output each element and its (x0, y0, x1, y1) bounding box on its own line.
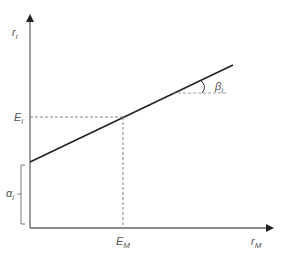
slope-angle-arc (200, 80, 205, 93)
y-axis-label: ri (12, 26, 18, 41)
diagram-canvas: ri Ei αi βi EM rM (0, 0, 289, 253)
ei-label: Ei (14, 111, 23, 126)
x-axis-label: rM (251, 235, 262, 250)
alpha-bracket (21, 165, 25, 224)
regression-line (30, 65, 233, 162)
alpha-label: αi (6, 187, 14, 202)
em-label: EM (116, 235, 130, 250)
